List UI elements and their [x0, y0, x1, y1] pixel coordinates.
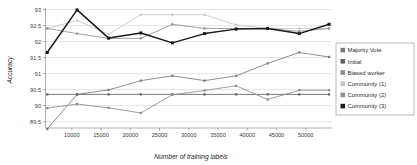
x-tick-label: 30000 — [181, 132, 197, 138]
x-tick-label: 20000 — [122, 132, 138, 138]
x-tick-label: 50000 — [298, 132, 314, 138]
y-tick-label: 92 — [35, 39, 41, 45]
data-point — [171, 75, 173, 77]
series-community-3 — [46, 8, 331, 54]
data-point — [46, 51, 49, 54]
data-point — [76, 8, 79, 11]
y-axis-title: Accuracy — [6, 56, 14, 85]
x-tick-label: 45000 — [269, 132, 285, 138]
data-point — [46, 27, 48, 29]
series-line — [47, 10, 329, 53]
y-tick-label: 89.5 — [30, 119, 41, 125]
data-point — [76, 93, 78, 95]
legend-swatch — [341, 48, 346, 53]
data-point — [328, 27, 330, 29]
data-point — [76, 33, 78, 35]
legend-item-majority-vote[interactable]: Majority Vote — [341, 47, 383, 53]
legend-label: Community (3) — [348, 103, 387, 109]
legend-swatch — [341, 104, 346, 109]
legend-swatch — [341, 81, 346, 86]
legend-item-initial[interactable]: Initial — [341, 59, 362, 65]
data-point — [235, 85, 237, 87]
data-point — [203, 32, 206, 35]
y-tick-label: 90.5 — [30, 87, 41, 93]
data-point — [171, 23, 173, 25]
x-tick-label: 10000 — [64, 132, 80, 138]
data-point — [140, 80, 142, 82]
data-point — [203, 27, 205, 29]
legend-swatch — [341, 70, 346, 75]
data-point — [203, 80, 205, 82]
data-point — [328, 23, 331, 26]
x-axis-title: Number of training labels — [154, 153, 228, 161]
data-point — [171, 41, 174, 44]
data-point — [76, 19, 78, 21]
series-line — [47, 52, 329, 128]
series-majority-vote — [46, 51, 330, 130]
data-point — [298, 89, 300, 91]
x-tick-label: 25000 — [152, 132, 168, 138]
ytick-labels-group: 89.59090.59191.59292.593 — [30, 7, 41, 125]
data-point — [235, 28, 238, 31]
data-point — [298, 27, 300, 29]
data-point — [46, 107, 48, 109]
data-point — [108, 33, 110, 35]
data-point — [235, 24, 237, 26]
data-point — [140, 112, 142, 114]
series-group — [46, 8, 331, 130]
legend-item-community-2[interactable]: Community (2) — [341, 92, 387, 98]
data-point — [298, 93, 300, 95]
x-tick-label: 15000 — [93, 132, 109, 138]
x-tick-label: 40000 — [239, 132, 255, 138]
data-point — [46, 93, 48, 95]
legend-item-biased-worker[interactable]: Biased worker — [341, 70, 385, 76]
data-point — [203, 93, 205, 95]
x-tick-label: 35000 — [210, 132, 226, 138]
xtick-labels-group: 1000015000200002500030000350004000045000… — [64, 132, 313, 138]
data-point — [203, 89, 205, 91]
legend-label: Community (2) — [348, 92, 387, 98]
y-tick-label: 90 — [35, 103, 41, 109]
data-point — [328, 89, 330, 91]
data-point — [108, 93, 110, 95]
legend-item-community-3[interactable]: Community (3) — [341, 103, 387, 109]
data-point — [108, 89, 110, 91]
legend-label: Initial — [348, 59, 362, 65]
data-point — [235, 75, 237, 77]
data-point — [328, 56, 330, 58]
legend-label: Community (1) — [348, 81, 387, 87]
y-tick-label: 91 — [35, 71, 41, 77]
legend-item-community-1[interactable]: Community (1) — [341, 81, 387, 87]
data-point — [108, 107, 110, 109]
y-tick-label: 92.5 — [30, 23, 41, 29]
legend-label: Majority Vote — [348, 47, 383, 53]
data-point — [267, 62, 269, 64]
legend-group[interactable]: Majority VoteInitialBiased workerCommuni… — [336, 43, 414, 115]
data-point — [328, 93, 330, 95]
data-point — [139, 31, 142, 34]
data-point — [46, 128, 48, 130]
data-point — [76, 103, 78, 105]
data-point — [140, 37, 142, 39]
series-biased-worker — [46, 85, 330, 114]
legend-swatch — [341, 93, 346, 98]
data-point — [298, 51, 300, 53]
data-point — [171, 14, 173, 16]
legend-label: Biased worker — [348, 70, 385, 76]
data-point — [298, 32, 301, 35]
chart-canvas: 89.59090.59191.59292.593 100001500020000… — [0, 0, 417, 165]
data-point — [235, 93, 237, 95]
y-tick-label: 91.5 — [30, 55, 41, 61]
data-point — [267, 98, 269, 100]
data-point — [107, 37, 110, 40]
legend-swatch — [341, 59, 346, 64]
y-tick-label: 93 — [35, 7, 41, 13]
line-chart: 89.59090.59191.59292.593 100001500020000… — [0, 0, 417, 165]
data-point — [140, 93, 142, 95]
data-point — [140, 14, 142, 16]
data-point — [266, 27, 269, 30]
data-point — [203, 14, 205, 16]
data-point — [171, 94, 173, 96]
data-point — [267, 93, 269, 95]
